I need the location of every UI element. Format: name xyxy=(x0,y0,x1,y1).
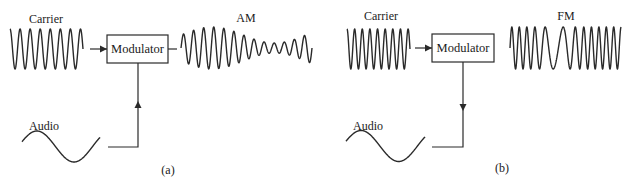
modulator-label-a: Modulator xyxy=(111,42,165,56)
panel-a: Carrier Modulator AM Audio (a) xyxy=(10,11,312,177)
audio-to-modulator-line-a xyxy=(108,63,138,147)
am-label: AM xyxy=(236,11,256,25)
arrow-right-icon xyxy=(100,46,107,53)
carrier-label-a: Carrier xyxy=(29,12,63,26)
carrier-label-b: Carrier xyxy=(364,9,398,23)
caption-a: (a) xyxy=(161,163,174,177)
arrow-right-icon xyxy=(425,45,432,52)
carrier-waveform-a xyxy=(10,29,83,69)
arrow-up-icon xyxy=(135,101,142,108)
audio-waveform-a xyxy=(22,131,100,162)
arrow-down-icon xyxy=(460,104,467,111)
modulator-label-b: Modulator xyxy=(437,41,491,55)
audio-waveform-b xyxy=(346,131,425,162)
panel-b: Carrier Modulator FM Audio (b) xyxy=(346,9,621,175)
fm-waveform xyxy=(510,27,621,69)
modulation-diagram: Carrier Modulator AM Audio (a) Carrier M… xyxy=(0,0,631,187)
fm-label: FM xyxy=(557,9,575,23)
carrier-waveform-b xyxy=(347,29,410,69)
caption-b: (b) xyxy=(495,161,509,175)
modulator-to-audio-line-b xyxy=(432,62,463,147)
am-waveform xyxy=(181,27,312,69)
